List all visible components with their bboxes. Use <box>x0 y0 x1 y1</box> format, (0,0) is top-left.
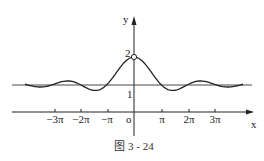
hole-point <box>131 54 136 59</box>
y-axis-arrow-icon <box>132 16 137 25</box>
x-tick-label: −π <box>101 113 113 125</box>
x-axis-arrow-icon <box>246 110 254 115</box>
x-tick-label: π <box>159 113 165 125</box>
x-axis-label: x <box>251 118 257 130</box>
y-tick-label-2: 2 <box>125 47 131 59</box>
function-graph: y x o 2 1 −3π −2π −π π 2π 3π 图 3 - 24 <box>0 0 264 161</box>
y-axis-label: y <box>123 13 129 25</box>
x-tick-label: −2π <box>72 113 90 125</box>
x-tick-label: −3π <box>46 113 64 125</box>
y-tick-label-1: 1 <box>127 88 133 100</box>
figure-caption: 图 3 - 24 <box>114 140 154 152</box>
x-tick-label: 2π <box>183 113 195 125</box>
origin-label: o <box>126 113 132 125</box>
x-tick-label: 3π <box>209 113 221 125</box>
